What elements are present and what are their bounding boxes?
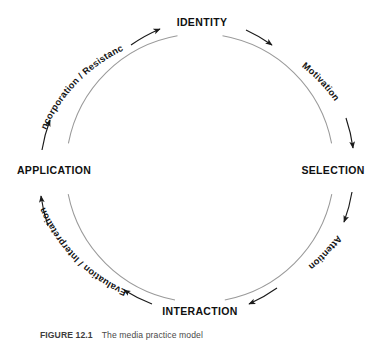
media-practice-cycle-diagram: IDENTITY SELECTION INTERACTION APPLICATI… bbox=[0, 0, 374, 344]
inner-arc-top-right bbox=[223, 36, 332, 144]
inner-arc-bottom-left bbox=[68, 194, 175, 300]
inner-circle-arcs bbox=[68, 36, 332, 300]
arc-label-motivation: Motivation bbox=[300, 60, 341, 103]
figure-caption-text: The media practice model bbox=[102, 330, 203, 340]
arc-label-evaluation-interpretation: Evaluation / Interpretation bbox=[37, 206, 128, 298]
inner-arc-bottom-right bbox=[225, 194, 332, 300]
arrow-incorporation-to-identity bbox=[131, 29, 160, 45]
figure-container: IDENTITY SELECTION INTERACTION APPLICATI… bbox=[0, 0, 374, 344]
arrow-motivation-to-selection bbox=[346, 118, 353, 148]
node-label-interaction: INTERACTION bbox=[162, 305, 238, 317]
arc-label-attention: Attention bbox=[307, 234, 344, 272]
arc-label-incorporation-resistance: Incorporation / Resistance bbox=[0, 0, 125, 131]
node-label-application: APPLICATION bbox=[17, 164, 91, 176]
figure-caption: FIGURE 12.1The media practice model bbox=[40, 330, 370, 340]
arrow-selection-to-attention bbox=[344, 192, 352, 222]
node-label-identity: IDENTITY bbox=[177, 16, 228, 28]
arrow-identity-to-motivation bbox=[246, 30, 272, 45]
figure-caption-number: FIGURE 12.1 bbox=[40, 330, 93, 340]
node-label-selection: SELECTION bbox=[301, 164, 364, 176]
arrow-attention-to-interaction bbox=[249, 288, 277, 304]
